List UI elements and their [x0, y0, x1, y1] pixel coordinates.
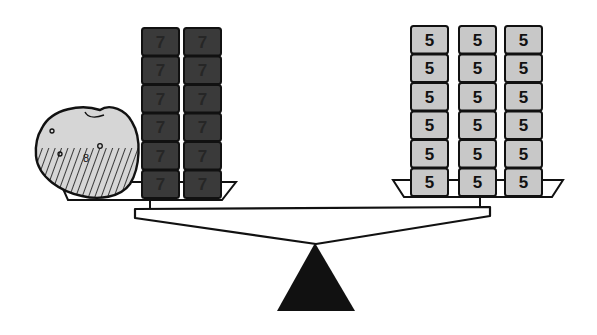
right-block: 5: [411, 140, 448, 168]
left-block: 7: [142, 85, 179, 113]
block-value: 7: [198, 118, 207, 137]
right-block: 5: [505, 55, 542, 83]
right-block: 5: [411, 112, 448, 140]
right-block: 5: [411, 55, 448, 83]
left-block: 7: [184, 57, 221, 85]
right-block: 5: [505, 83, 542, 111]
right-block: 5: [505, 169, 542, 197]
left-block: 7: [184, 114, 221, 142]
block-value: 5: [473, 173, 482, 192]
right-block: 5: [505, 26, 542, 54]
block-value: 5: [519, 145, 528, 164]
left-stack-2: 777777: [184, 28, 221, 198]
block-value: 5: [473, 116, 482, 135]
right-block: 5: [459, 112, 496, 140]
block-value: 5: [425, 88, 434, 107]
right-stack-2: 555555: [459, 26, 496, 196]
block-value: 7: [156, 175, 165, 194]
block-value: 5: [473, 145, 482, 164]
right-block: 5: [459, 55, 496, 83]
beam: [135, 198, 490, 244]
right-block: 5: [411, 83, 448, 111]
right-block: 5: [411, 26, 448, 54]
right-block: 5: [459, 169, 496, 197]
balance-scale-diagram: 8 777777777777 555555555555555555: [0, 0, 597, 335]
left-block: 7: [142, 142, 179, 170]
block-value: 7: [198, 175, 207, 194]
right-block: 5: [505, 140, 542, 168]
block-value: 5: [519, 88, 528, 107]
block-value: 7: [156, 147, 165, 166]
block-value: 7: [156, 61, 165, 80]
block-value: 7: [198, 61, 207, 80]
fulcrum-triangle: [277, 243, 355, 311]
left-block: 7: [184, 142, 221, 170]
block-value: 5: [519, 59, 528, 78]
block-value: 5: [425, 116, 434, 135]
block-value: 7: [198, 33, 207, 52]
left-block: 7: [142, 28, 179, 56]
potato: 8: [36, 107, 139, 198]
right-block-stacks: 555555555555555555: [411, 26, 542, 196]
right-block: 5: [459, 140, 496, 168]
block-value: 7: [198, 147, 207, 166]
left-block: 7: [142, 114, 179, 142]
block-value: 7: [156, 90, 165, 109]
block-value: 5: [519, 116, 528, 135]
right-block: 5: [459, 26, 496, 54]
block-value: 7: [156, 118, 165, 137]
right-stack-3: 555555: [505, 26, 542, 196]
left-stack-1: 777777: [142, 28, 179, 198]
right-block: 5: [459, 83, 496, 111]
block-value: 5: [425, 173, 434, 192]
block-value: 5: [519, 31, 528, 50]
left-block: 7: [184, 85, 221, 113]
left-block: 7: [184, 171, 221, 199]
right-block: 5: [505, 112, 542, 140]
block-value: 5: [473, 88, 482, 107]
block-value: 5: [519, 173, 528, 192]
right-stack-1: 555555: [411, 26, 448, 196]
block-value: 5: [425, 145, 434, 164]
left-block-stacks: 777777777777: [142, 28, 221, 198]
block-value: 5: [425, 31, 434, 50]
left-block: 7: [142, 171, 179, 199]
block-value: 5: [473, 59, 482, 78]
potato-mark: 8: [83, 152, 89, 164]
right-block: 5: [411, 169, 448, 197]
block-value: 5: [425, 59, 434, 78]
left-block: 7: [142, 57, 179, 85]
block-value: 5: [473, 31, 482, 50]
left-block: 7: [184, 28, 221, 56]
block-value: 7: [156, 33, 165, 52]
block-value: 7: [198, 90, 207, 109]
